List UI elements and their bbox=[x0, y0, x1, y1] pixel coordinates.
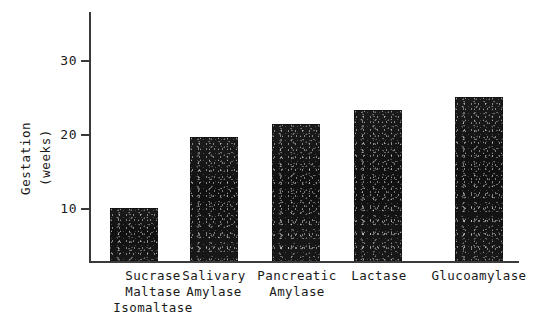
bar bbox=[354, 110, 402, 261]
bar bbox=[455, 97, 503, 261]
x-axis-category-label-line-2: Amylase bbox=[227, 284, 367, 300]
x-axis-category-label-line-1: Glucoamylase bbox=[409, 268, 545, 284]
bar bbox=[110, 208, 158, 261]
x-axis-category-label: Glucoamylase bbox=[409, 268, 545, 284]
bar-chart-figure: Gestation (weeks) 30 20 10 SucraseMaltas… bbox=[0, 0, 545, 330]
bar bbox=[190, 137, 238, 261]
x-axis-category-label-line-3: Isomaltase bbox=[83, 300, 223, 316]
bar bbox=[272, 124, 320, 261]
